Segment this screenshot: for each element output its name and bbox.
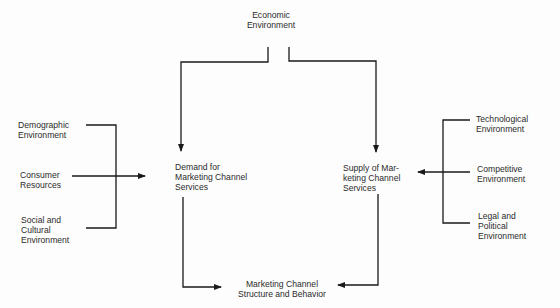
node-social: Social and Cultural Environment [21, 215, 91, 245]
node-legal: Legal and Political Environment [478, 211, 558, 241]
edge-supply-structure [338, 194, 378, 285]
node-supply: Supply of Mar- keting Channel Services [343, 163, 423, 193]
node-technological: Technological Environment [476, 114, 556, 134]
node-consumer: Consumer Resources [20, 170, 80, 190]
node-demand: Demand for Marketing Channel Services [175, 162, 285, 192]
connector-lines [0, 0, 560, 308]
node-structure-behavior: Marketing Channel Structure and Behavior [224, 279, 340, 299]
node-competitive: Competitive Environment [477, 164, 557, 184]
edge-demand-structure [183, 197, 221, 287]
node-demographic: Demographic Environment [18, 120, 88, 140]
edge-economic-demand [181, 47, 268, 151]
edge-economic-supply [289, 47, 376, 152]
node-economic-environment: Economic Environment [226, 10, 316, 30]
marketing-channel-diagram: Economic Environment Demand for Marketin… [0, 0, 560, 308]
